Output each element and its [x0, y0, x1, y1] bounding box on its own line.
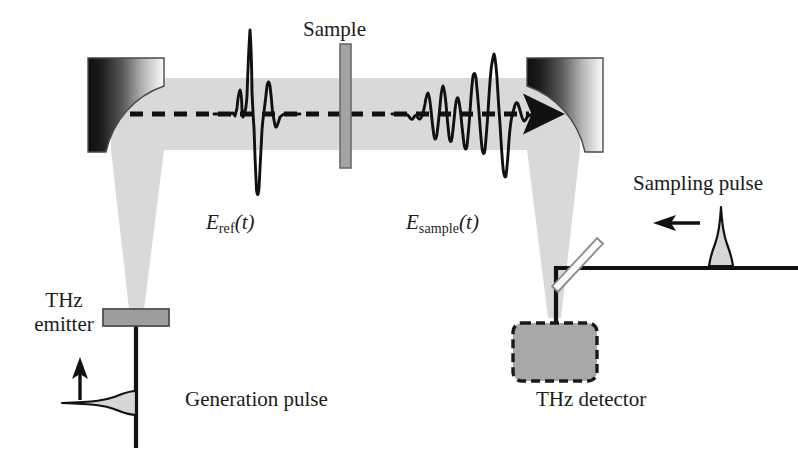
- generation-pulse-envelope: [62, 391, 136, 415]
- generation-direction-arrow-icon: [72, 357, 88, 400]
- sample-slab[interactable]: [340, 44, 351, 168]
- thz-detector-label: THz detector: [536, 389, 646, 410]
- thz-beam-left-cone: [111, 150, 164, 318]
- thz-detector-block[interactable]: [513, 323, 597, 381]
- e-sample-label: Esample(t): [406, 212, 479, 236]
- thz-emitter-label: THz emitter: [28, 289, 100, 336]
- sampling-direction-arrow-icon: [653, 215, 700, 231]
- sampling-pulse-label: Sampling pulse: [633, 173, 763, 194]
- e-ref-symbol: E: [206, 210, 219, 234]
- waveform-sample-trace: [392, 54, 545, 177]
- sampling-pulse-envelope: [709, 207, 733, 266]
- thz-emitter-label-line1: THz: [45, 288, 82, 312]
- thz-beam-right-cone: [527, 150, 580, 318]
- waveform-sample: [392, 54, 545, 177]
- thz-tds-diagram: Sample THz emitter Generation pulse Samp…: [0, 0, 798, 461]
- sample-label: Sample: [303, 19, 366, 40]
- diagram-canvas: [0, 0, 798, 461]
- e-ref-label: Eref(t): [206, 212, 255, 236]
- e-sample-subscript: sample: [419, 221, 459, 236]
- e-sample-symbol: E: [406, 210, 419, 234]
- thz-emitter-label-line2: emitter: [34, 312, 93, 336]
- e-sample-argument: (t): [459, 210, 479, 234]
- generation-pulse-label: Generation pulse: [185, 389, 328, 410]
- e-ref-argument: (t): [235, 210, 255, 234]
- e-ref-subscript: ref: [219, 221, 235, 236]
- thz-emitter-element[interactable]: [103, 309, 169, 326]
